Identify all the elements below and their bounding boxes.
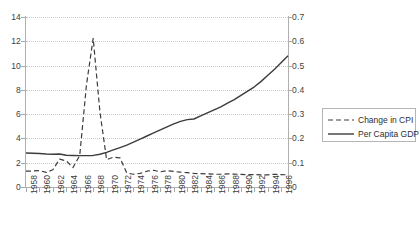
y-axis-right-tick <box>289 163 293 164</box>
x-axis-tick <box>160 188 161 192</box>
x-axis-tick <box>268 188 269 192</box>
series-line-per-capita-gdp <box>26 56 288 156</box>
y-axis-right-labels: 00.10.20.30.40.50.60.7 <box>292 0 322 232</box>
y-axis-right-tick <box>289 114 293 115</box>
legend-item-change-in-cpi: Change in CPI <box>328 113 410 127</box>
y-axis-left-tick-label: 14 <box>11 13 21 22</box>
x-axis-tick <box>147 188 148 192</box>
y-axis-left-tick <box>21 138 25 139</box>
legend-swatch-dashed <box>328 116 354 124</box>
chart-legend: Change in CPI Per Capita GDP <box>322 108 416 142</box>
x-axis-tick <box>254 188 255 192</box>
y-axis-left-tick <box>21 66 25 67</box>
y-axis-left-tick-label: 12 <box>11 37 21 46</box>
y-axis-right-tick <box>289 90 293 91</box>
legend-swatch-solid <box>328 130 354 138</box>
y-axis-left-tick <box>21 17 25 18</box>
y-axis-left-tick <box>21 90 25 91</box>
x-axis-tick <box>174 188 175 192</box>
x-axis-tick <box>228 188 229 192</box>
x-axis-tick <box>26 188 27 192</box>
y-axis-right-tick-label: 0.6 <box>292 37 304 46</box>
y-axis-left-labels: 02468101214 <box>0 0 21 232</box>
x-axis-tick <box>120 188 121 192</box>
y-axis-right-tick-label: 0.4 <box>292 86 304 95</box>
x-axis-tick <box>66 188 67 192</box>
y-axis-left-tick <box>21 163 25 164</box>
chart-container: 02468101214 00.10.20.30.40.50.60.7 19581… <box>0 0 419 232</box>
x-axis-tick <box>39 188 40 192</box>
x-axis-tick <box>187 188 188 192</box>
legend-label-change-in-cpi: Change in CPI <box>358 116 413 125</box>
x-axis-tick <box>201 188 202 192</box>
data-series-lines <box>26 17 288 187</box>
y-axis-right-tick <box>289 17 293 18</box>
x-axis-tick <box>133 188 134 192</box>
x-axis-tick <box>80 188 81 192</box>
x-axis-tick <box>53 188 54 192</box>
x-axis-tick <box>93 188 94 192</box>
x-axis-tick <box>281 188 282 192</box>
y-axis-right-tick-label: 0.3 <box>292 110 304 119</box>
x-axis-tick <box>214 188 215 192</box>
legend-label-per-capita-gdp: Per Capita GDP <box>358 130 419 139</box>
y-axis-right-tick <box>289 41 293 42</box>
x-axis-tick <box>241 188 242 192</box>
y-axis-right-tick <box>289 138 293 139</box>
y-axis-right-tick-label: 0.2 <box>292 134 304 143</box>
y-axis-right-tick-label: 0.5 <box>292 61 304 70</box>
y-axis-left-tick-label: 10 <box>11 61 21 70</box>
x-axis-tick <box>107 188 108 192</box>
y-axis-left-tick <box>21 187 25 188</box>
y-axis-left-tick <box>21 114 25 115</box>
y-axis-left-tick <box>21 41 25 42</box>
legend-item-per-capita-gdp: Per Capita GDP <box>328 127 410 141</box>
y-axis-right-tick-label: 0.1 <box>292 158 304 167</box>
y-axis-right-tick <box>289 66 293 67</box>
y-axis-right-tick-label: 0.7 <box>292 13 304 22</box>
